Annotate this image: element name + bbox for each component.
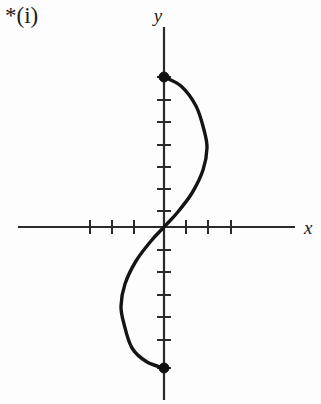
- graph-canvas: y x: [0, 0, 321, 404]
- curve-endpoint-top: [159, 72, 169, 82]
- figure-root: *(i): [0, 0, 321, 404]
- curve-endpoint-bottom: [159, 363, 169, 373]
- axes-group: [18, 27, 295, 400]
- y-axis-label: y: [152, 5, 163, 26]
- x-axis-label: x: [303, 217, 313, 238]
